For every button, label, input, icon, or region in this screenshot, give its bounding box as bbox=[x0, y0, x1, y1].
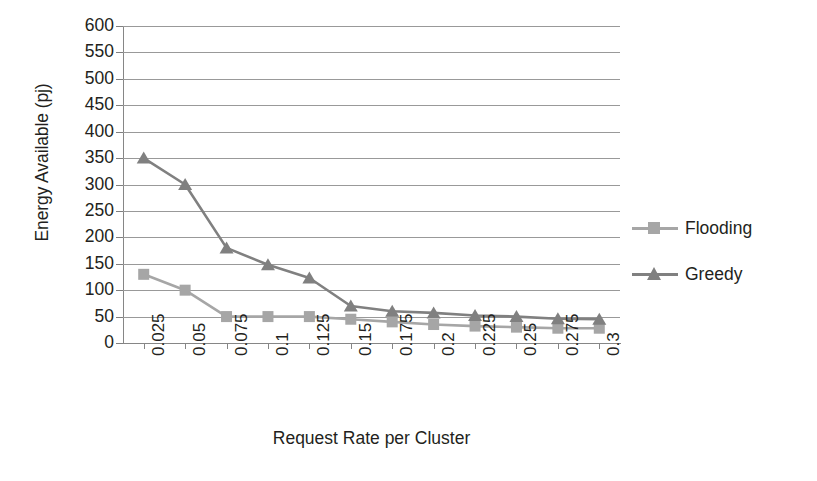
x-tick-mark bbox=[144, 344, 145, 349]
x-tick-label: 0.225 bbox=[481, 313, 498, 356]
x-tick-label: 0.025 bbox=[150, 313, 167, 356]
series-greedy bbox=[137, 152, 607, 325]
y-tick-label: 150 bbox=[85, 255, 114, 273]
data-point-square bbox=[138, 269, 149, 280]
x-tick-label: 0.075 bbox=[233, 313, 250, 356]
x-tick-label: 0.275 bbox=[564, 313, 581, 356]
x-tick-label: 0.25 bbox=[522, 323, 539, 356]
y-tick-label: 350 bbox=[85, 149, 114, 167]
data-point-square bbox=[470, 321, 481, 332]
series-layer bbox=[123, 26, 620, 343]
x-tick-label: 0.2 bbox=[440, 332, 457, 356]
y-tick-mark bbox=[116, 237, 123, 238]
y-tick-mark bbox=[116, 158, 123, 159]
x-tick-mark bbox=[268, 344, 269, 349]
x-tick-mark bbox=[434, 344, 435, 349]
data-point-square bbox=[262, 311, 273, 322]
x-tick-label: 0.15 bbox=[357, 323, 374, 356]
y-tick-label: 250 bbox=[85, 202, 114, 220]
y-tick-mark bbox=[116, 343, 123, 344]
y-tick-label: 0 bbox=[104, 334, 114, 352]
x-tick-mark bbox=[599, 344, 600, 349]
line-chart: Energy Available (pj) 600550500450400350… bbox=[0, 0, 817, 481]
y-tick-mark bbox=[116, 132, 123, 133]
y-tick-mark bbox=[116, 317, 123, 318]
y-tick-mark bbox=[116, 52, 123, 53]
series-line bbox=[144, 274, 600, 328]
data-point-triangle bbox=[137, 152, 151, 164]
x-tick-label: 0.1 bbox=[274, 332, 291, 356]
data-point-square bbox=[221, 311, 232, 322]
x-tick-mark bbox=[227, 344, 228, 349]
x-tick-label: 0.175 bbox=[398, 313, 415, 356]
x-tick-mark bbox=[309, 344, 310, 349]
plot-area bbox=[123, 26, 620, 343]
legend-item-flooding[interactable]: Flooding bbox=[632, 205, 812, 251]
chart-legend: Flooding Greedy bbox=[632, 205, 812, 297]
x-tick-mark bbox=[558, 344, 559, 349]
legend-label-greedy: Greedy bbox=[685, 264, 742, 285]
greedy-series-icon bbox=[632, 265, 678, 283]
x-tick-mark bbox=[185, 344, 186, 349]
y-tick-mark bbox=[116, 185, 123, 186]
data-point-triangle bbox=[178, 178, 192, 190]
y-tick-label: 400 bbox=[85, 123, 114, 141]
x-tick-label: 0.125 bbox=[315, 313, 332, 356]
y-tick-mark bbox=[116, 264, 123, 265]
legend-item-greedy[interactable]: Greedy bbox=[632, 251, 812, 297]
y-tick-label: 200 bbox=[85, 228, 114, 246]
legend-label-flooding: Flooding bbox=[685, 218, 752, 239]
y-tick-label: 600 bbox=[85, 17, 114, 35]
y-tick-mark bbox=[116, 290, 123, 291]
y-tick-mark bbox=[116, 79, 123, 80]
x-tick-mark bbox=[351, 344, 352, 349]
x-tick-mark bbox=[475, 344, 476, 349]
x-tick-mark bbox=[392, 344, 393, 349]
data-point-square bbox=[345, 314, 356, 325]
y-tick-label: 50 bbox=[95, 308, 114, 326]
x-axis-title: Request Rate per Cluster bbox=[123, 428, 620, 449]
flooding-series-icon bbox=[632, 219, 678, 237]
data-point-triangle bbox=[220, 241, 234, 253]
x-tick-label: 0.05 bbox=[191, 323, 208, 356]
y-axis-tick-labels: 600550500450400350300250200150100500 bbox=[46, 0, 114, 481]
y-tick-label: 300 bbox=[85, 176, 114, 194]
x-tick-label: 0.3 bbox=[605, 332, 622, 356]
y-tick-mark bbox=[116, 26, 123, 27]
y-tick-label: 100 bbox=[85, 281, 114, 299]
x-tick-mark bbox=[516, 344, 517, 349]
data-point-square bbox=[428, 319, 439, 330]
y-tick-mark bbox=[116, 211, 123, 212]
y-tick-mark bbox=[116, 105, 123, 106]
series-line bbox=[144, 158, 600, 319]
y-tick-label: 450 bbox=[85, 96, 114, 114]
y-tick-label: 550 bbox=[85, 43, 114, 61]
data-point-square bbox=[552, 323, 563, 334]
data-point-square bbox=[180, 285, 191, 296]
data-point-triangle bbox=[261, 258, 275, 270]
y-tick-label: 500 bbox=[85, 70, 114, 88]
